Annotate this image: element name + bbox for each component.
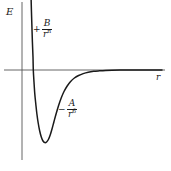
repulsive-term-fraction: B rn <box>42 19 52 40</box>
attractive-term-denominator-exponent: 6 <box>72 107 76 114</box>
attractive-term-fraction: A r6 <box>67 99 77 120</box>
repulsive-term-denominator-exponent: n <box>47 27 51 34</box>
y-axis-label: E <box>6 7 13 17</box>
x-axis-label: r <box>156 73 160 82</box>
attractive-term-sign: − <box>58 105 66 114</box>
attractive-term-annotation: − A r6 <box>58 99 77 120</box>
repulsive-term-annotation: + B rn <box>33 19 52 40</box>
repulsive-term-denominator: rn <box>42 30 52 39</box>
potential-energy-figure: E r + B rn − A r6 <box>0 0 171 171</box>
attractive-term-denominator: r6 <box>67 110 77 119</box>
plot-canvas <box>0 0 171 171</box>
repulsive-term-sign: + <box>33 25 41 34</box>
